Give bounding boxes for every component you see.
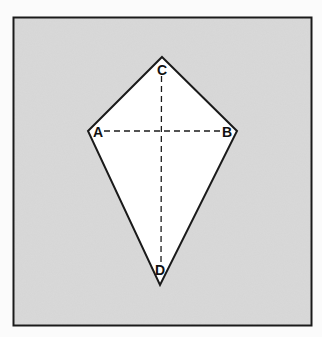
kite-diagram: C A B D (0, 0, 322, 337)
vertex-label-b: B (222, 124, 232, 140)
vertex-label-d: D (155, 262, 165, 278)
vertex-label-a: A (93, 124, 103, 140)
vertex-label-c: C (157, 62, 167, 78)
